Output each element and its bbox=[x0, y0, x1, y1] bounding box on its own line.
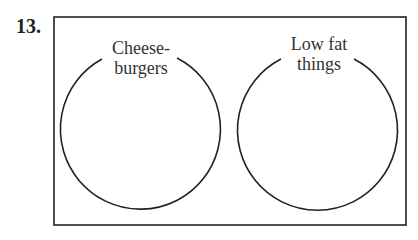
label-line: Low fat bbox=[274, 34, 364, 54]
low-fat-things-label: Low fat things bbox=[274, 34, 364, 74]
label-line: things bbox=[274, 54, 364, 74]
label-line: Cheese- bbox=[96, 38, 186, 58]
cheeseburgers-label: Cheese- burgers bbox=[96, 38, 186, 78]
cheeseburgers-circle bbox=[60, 58, 220, 209]
label-line: burgers bbox=[96, 58, 186, 78]
low-fat-things-circle bbox=[238, 59, 398, 210]
